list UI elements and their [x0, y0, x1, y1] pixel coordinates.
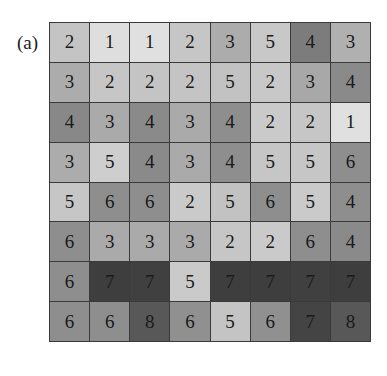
grid-cell-r7-c1: 6	[50, 262, 89, 301]
grid-cell-r3-c3: 4	[130, 103, 169, 142]
grid-cell-r1-c2: 1	[90, 23, 129, 62]
grid-cell-r4-c6: 5	[251, 143, 290, 182]
grid-cell-r5-c1: 5	[50, 183, 89, 222]
grid-cell-r5-c3: 6	[130, 183, 169, 222]
grid-cell-r8-c7: 7	[291, 302, 330, 341]
grid-cell-r4-c2: 5	[90, 143, 129, 182]
grid-cell-r8-c5: 5	[211, 302, 250, 341]
grid-cell-r8-c6: 6	[251, 302, 290, 341]
grid-cell-r6-c5: 2	[211, 222, 250, 261]
grid-cell-r2-c8: 4	[331, 63, 370, 102]
grid-cell-r8-c2: 6	[90, 302, 129, 341]
grid-cell-r5-c4: 2	[170, 183, 209, 222]
grid-cell-r1-c8: 3	[331, 23, 370, 62]
grid-cell-r4-c8: 6	[331, 143, 370, 182]
grid-cell-r5-c2: 6	[90, 183, 129, 222]
grid-cell-r4-c1: 3	[50, 143, 89, 182]
grid-cell-r1-c3: 1	[130, 23, 169, 62]
grid-cell-r4-c4: 3	[170, 143, 209, 182]
grid-cell-r7-c6: 7	[251, 262, 290, 301]
grid-cell-r1-c7: 4	[291, 23, 330, 62]
grid-cell-r6-c8: 4	[331, 222, 370, 261]
grid-cell-r3-c2: 3	[90, 103, 129, 142]
grid-cell-r3-c5: 4	[211, 103, 250, 142]
panel-label: (a)	[17, 32, 38, 54]
grid-cell-r3-c8: 1	[331, 103, 370, 142]
grid-cell-r5-c6: 6	[251, 183, 290, 222]
grid-cell-r2-c2: 2	[90, 63, 129, 102]
grid-cell-r5-c7: 5	[291, 183, 330, 222]
grid-cell-r2-c3: 2	[130, 63, 169, 102]
grid-cell-r6-c6: 2	[251, 222, 290, 261]
grid-cell-r6-c4: 3	[170, 222, 209, 261]
grid-cell-r2-c1: 3	[50, 63, 89, 102]
grid-cell-r8-c3: 8	[130, 302, 169, 341]
grid-cell-r6-c1: 6	[50, 222, 89, 261]
grid-cell-r8-c4: 6	[170, 302, 209, 341]
grid-cell-r3-c6: 2	[251, 103, 290, 142]
grid-cell-r8-c1: 6	[50, 302, 89, 341]
grid-cell-r6-c2: 3	[90, 222, 129, 261]
grid-cell-r1-c4: 2	[170, 23, 209, 62]
grid-cell-r8-c8: 8	[331, 302, 370, 341]
grid-cell-r2-c7: 3	[291, 63, 330, 102]
grid-cell-r4-c3: 4	[130, 143, 169, 182]
grid-cell-r5-c5: 5	[211, 183, 250, 222]
grid-cell-r7-c4: 5	[170, 262, 209, 301]
grid-cell-r2-c6: 2	[251, 63, 290, 102]
grid-cell-r4-c5: 4	[211, 143, 250, 182]
grid-cell-r7-c5: 7	[211, 262, 250, 301]
grid-cell-r7-c3: 7	[130, 262, 169, 301]
grid-cell-r4-c7: 5	[291, 143, 330, 182]
grid-cell-r7-c7: 7	[291, 262, 330, 301]
value-grid: 2112354332225234434342213543455656625654…	[49, 22, 371, 342]
grid-cell-r6-c7: 6	[291, 222, 330, 261]
grid-cell-r3-c7: 2	[291, 103, 330, 142]
grid-cell-r7-c2: 7	[90, 262, 129, 301]
grid-cell-r2-c4: 2	[170, 63, 209, 102]
grid-cell-r3-c1: 4	[50, 103, 89, 142]
grid-cell-r2-c5: 5	[211, 63, 250, 102]
grid-cell-r5-c8: 4	[331, 183, 370, 222]
grid-cell-r6-c3: 3	[130, 222, 169, 261]
grid-cell-r1-c5: 3	[211, 23, 250, 62]
grid-cell-r1-c6: 5	[251, 23, 290, 62]
grid-cell-r7-c8: 7	[331, 262, 370, 301]
grid-cell-r1-c1: 2	[50, 23, 89, 62]
grid-cell-r3-c4: 3	[170, 103, 209, 142]
